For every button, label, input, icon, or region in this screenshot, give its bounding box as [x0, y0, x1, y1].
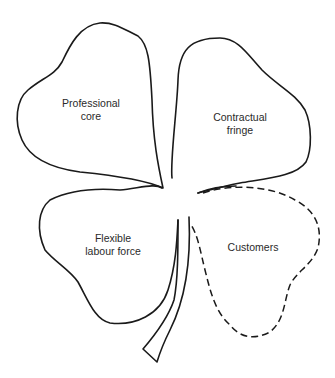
leaf-customers — [190, 187, 319, 336]
label-contractual-fringe-line2: fringe — [213, 124, 267, 137]
label-flexible-labour-force: Flexible labour force — [85, 232, 140, 258]
label-flexible-labour-force-line2: labour force — [85, 245, 140, 258]
shamrock-diagram — [0, 0, 335, 378]
label-professional-core-line1: Professional — [62, 97, 120, 110]
stem — [143, 217, 189, 362]
label-professional-core-line2: core — [62, 110, 120, 123]
label-flexible-labour-force-line1: Flexible — [85, 232, 140, 245]
label-customers: Customers — [228, 241, 279, 254]
label-contractual-fringe-line1: Contractual — [213, 111, 267, 124]
label-professional-core: Professional core — [62, 97, 120, 123]
label-contractual-fringe: Contractual fringe — [213, 111, 267, 137]
label-customers-line1: Customers — [228, 241, 279, 254]
